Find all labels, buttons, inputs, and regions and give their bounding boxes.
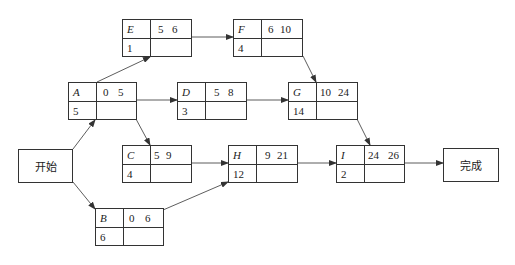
activity-es: 0 [103, 86, 109, 98]
activity-name: A [73, 86, 80, 98]
activity-ef: 10 [280, 23, 291, 35]
activity-es: 0 [129, 212, 135, 224]
activity-duration: 3 [182, 105, 188, 117]
activity-ef: 8 [228, 86, 234, 98]
activity-node-f: F 6 10 4 [233, 19, 303, 57]
activity-duration: 2 [341, 168, 347, 180]
activity-name: F [238, 23, 245, 35]
activity-es: 10 [320, 86, 331, 98]
activity-node-g: G 10 24 14 [288, 82, 358, 120]
activity-node-e: E 5 6 1 [122, 19, 192, 57]
start-label: 开始 [35, 158, 57, 174]
activity-node-b: B 0 6 6 [95, 208, 164, 246]
activity-es: 5 [154, 149, 160, 161]
edge-b-h [163, 182, 228, 210]
activity-name: E [127, 23, 134, 35]
activity-name: I [341, 149, 345, 161]
end-label: 完成 [460, 157, 482, 173]
activity-duration: 5 [73, 105, 79, 117]
activity-duration: 6 [100, 231, 106, 243]
activity-name: C [127, 149, 134, 161]
network-diagram: 开始 完成 A 0 5 5 B 0 6 6 C 5 9 4 D 5 8 3 E … [0, 0, 515, 265]
edge-start-a [73, 120, 95, 149]
activity-es: 6 [268, 23, 274, 35]
activity-es: 9 [265, 149, 271, 161]
activity-ef: 6 [145, 212, 151, 224]
activity-node-c: C 5 9 4 [122, 145, 192, 183]
activity-name: B [100, 212, 107, 224]
activity-ef: 24 [338, 86, 349, 98]
edge-g-i [357, 119, 370, 145]
edge-a-c [136, 119, 150, 145]
activity-duration: 12 [233, 168, 244, 180]
activity-node-i: I 24 26 2 [336, 145, 405, 183]
activity-duration: 4 [238, 42, 244, 54]
activity-duration: 1 [127, 42, 133, 54]
activity-name: H [233, 149, 241, 161]
activity-name: D [182, 86, 190, 98]
activity-ef: 5 [118, 86, 124, 98]
activity-ef: 21 [277, 149, 288, 161]
edge-start-b [73, 182, 95, 209]
activity-node-h: H 9 21 12 [228, 145, 298, 183]
activity-node-d: D 5 8 3 [177, 82, 247, 120]
activity-duration: 14 [293, 105, 304, 117]
edge-f-g [303, 56, 316, 82]
activity-ef: 9 [166, 149, 172, 161]
activity-es: 24 [368, 149, 379, 161]
activity-node-a: A 0 5 5 [68, 82, 137, 120]
end-node: 完成 [443, 148, 499, 182]
activity-name: G [293, 86, 301, 98]
activity-duration: 4 [127, 168, 133, 180]
edge-a-e [97, 57, 150, 82]
activity-es: 5 [158, 23, 164, 35]
activity-ef: 26 [388, 149, 399, 161]
start-node: 开始 [18, 149, 73, 183]
activity-es: 5 [214, 86, 220, 98]
activity-ef: 6 [172, 23, 178, 35]
